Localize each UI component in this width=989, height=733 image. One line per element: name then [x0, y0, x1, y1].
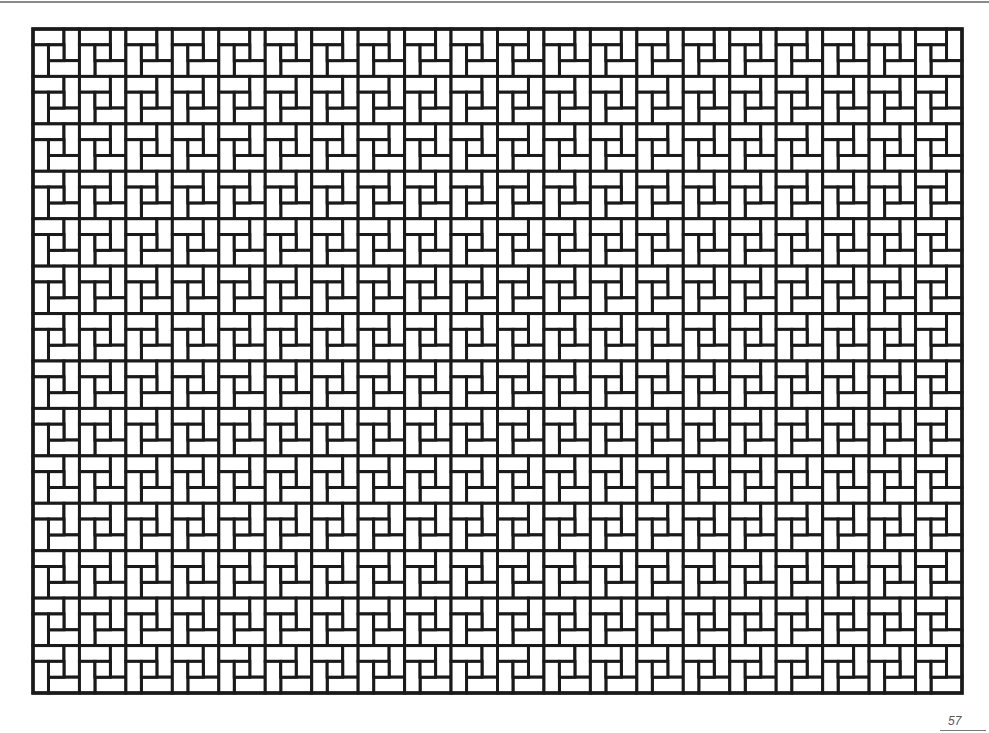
brick-top — [590, 219, 621, 235]
brick-bottom — [745, 393, 776, 409]
brick-left — [265, 140, 280, 172]
brick-top — [683, 408, 714, 424]
brick-bottom — [420, 345, 451, 361]
brick-center — [234, 661, 249, 677]
brick-center — [513, 614, 528, 630]
brick-right — [528, 456, 543, 488]
brick-center — [327, 472, 342, 488]
brick-right — [621, 171, 636, 203]
brick-right — [389, 361, 404, 393]
brick-left — [33, 519, 48, 551]
brick-left — [405, 614, 420, 646]
brick-center — [48, 235, 63, 251]
brick-top — [637, 171, 668, 187]
brick-bottom — [792, 630, 823, 646]
brick-left — [823, 661, 838, 693]
brick-left — [590, 424, 605, 456]
brick-center — [48, 424, 63, 440]
brick-left — [172, 92, 187, 124]
brick-center — [420, 661, 435, 677]
brick-right — [668, 124, 683, 156]
brick-center — [467, 614, 482, 630]
brick-center — [327, 661, 342, 677]
brick-top — [126, 171, 157, 187]
brick-right — [854, 361, 869, 393]
brick-bottom — [95, 630, 126, 646]
brick-left — [33, 140, 48, 172]
brick-right — [668, 314, 683, 346]
brick-bottom — [467, 203, 498, 219]
brick-left — [916, 519, 931, 551]
brick-left — [498, 519, 513, 551]
brick-left — [823, 329, 838, 361]
brick-right — [947, 76, 962, 108]
brick-right — [157, 29, 172, 61]
brick-top — [776, 171, 807, 187]
brick-left — [265, 567, 280, 599]
brick-top — [916, 171, 947, 187]
brick-center — [374, 424, 389, 440]
brick-bottom — [467, 440, 498, 456]
brick-center — [931, 329, 946, 345]
brick-left — [312, 45, 327, 77]
brick-center — [559, 519, 574, 535]
brick-top — [637, 361, 668, 377]
brick-bottom — [699, 345, 730, 361]
brick-right — [343, 314, 358, 346]
brick-center — [141, 140, 156, 156]
brick-left — [312, 377, 327, 409]
brick-left — [683, 472, 698, 504]
brick-left — [869, 92, 884, 124]
brick-top — [33, 361, 64, 377]
brick-center — [699, 45, 714, 61]
brick-center — [885, 424, 900, 440]
brick-right — [296, 314, 311, 346]
brick-top — [498, 598, 529, 614]
brick-right — [343, 29, 358, 61]
brick-center — [606, 567, 621, 583]
brick-left — [33, 329, 48, 361]
brick-bottom — [188, 203, 219, 219]
brick-left — [730, 472, 745, 504]
brick-right — [203, 124, 218, 156]
brick-right — [157, 503, 172, 535]
brick-top — [730, 171, 761, 187]
brick-top — [637, 598, 668, 614]
brick-center — [652, 235, 667, 251]
brick-top — [916, 29, 947, 45]
brick-bottom — [234, 582, 265, 598]
brick-top — [219, 361, 250, 377]
pinwheel-tile-pattern — [0, 0, 989, 733]
brick-left — [544, 282, 559, 314]
brick-left — [637, 45, 652, 77]
brick-left — [126, 614, 141, 646]
brick-center — [374, 329, 389, 345]
brick-left — [79, 472, 94, 504]
brick-right — [900, 266, 915, 298]
brick-left — [823, 140, 838, 172]
brick-bottom — [652, 535, 683, 551]
brick-right — [110, 124, 125, 156]
brick-top — [451, 124, 482, 140]
brick-center — [931, 45, 946, 61]
brick-top — [823, 124, 854, 140]
brick-right — [528, 503, 543, 535]
brick-right — [343, 361, 358, 393]
brick-top — [590, 456, 621, 472]
brick-right — [250, 314, 265, 346]
brick-top — [637, 314, 668, 330]
brick-left — [590, 45, 605, 77]
brick-center — [281, 45, 296, 61]
brick-left — [823, 519, 838, 551]
brick-right — [389, 646, 404, 678]
brick-top — [683, 503, 714, 519]
brick-top — [265, 124, 296, 140]
brick-bottom — [885, 440, 916, 456]
brick-center — [559, 377, 574, 393]
brick-bottom — [281, 487, 312, 503]
brick-right — [668, 76, 683, 108]
brick-bottom — [745, 487, 776, 503]
brick-top — [683, 551, 714, 567]
brick-bottom — [652, 345, 683, 361]
brick-right — [900, 124, 915, 156]
